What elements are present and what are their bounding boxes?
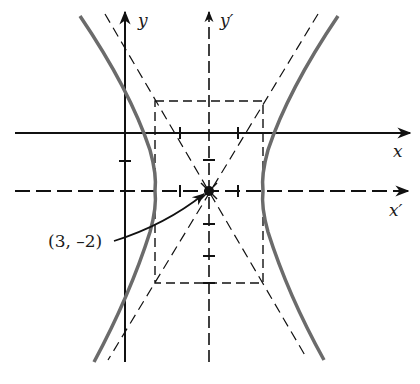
x-prime-axis-label: x′ <box>389 200 403 220</box>
hyperbola-left-branch <box>80 16 155 362</box>
asymptote-left-top <box>105 14 306 357</box>
center-pointer-arrow <box>114 194 204 241</box>
x-axis-label: x <box>393 141 403 161</box>
y-axis-label: y <box>137 10 148 30</box>
diagram-canvas: y y′ x x′ (3, –2) <box>0 0 420 384</box>
y-prime-axis-label: y′ <box>219 10 234 30</box>
center-point-label: (3, –2) <box>48 231 102 251</box>
hyperbola-right-branch <box>263 16 338 360</box>
hyperbola-diagram: y y′ x x′ (3, –2) <box>0 0 420 384</box>
